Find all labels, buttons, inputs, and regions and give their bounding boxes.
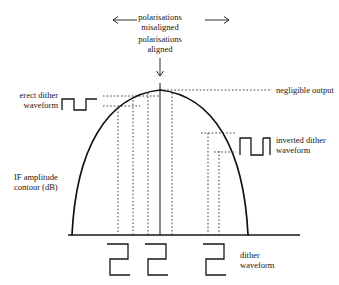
inverted-dither-waveform-glyph — [240, 138, 263, 155]
label-inverted-dither-waveform: inverted dither waveform — [276, 135, 338, 155]
diagram-root: polarisations misaligned polarisations a… — [0, 0, 339, 285]
inverted-dither-waveform-tail — [263, 138, 270, 155]
dither-sample-lines — [118, 93, 219, 235]
bottom-dither-waveforms — [107, 244, 226, 275]
label-polarisations-misaligned: polarisations misaligned — [124, 12, 196, 32]
label-erect-dither-waveform: erect dither waveform — [0, 90, 58, 110]
projection-lines — [103, 90, 272, 152]
aligned-down-arrow — [157, 58, 164, 76]
label-dither-waveform: dither waveform — [240, 250, 300, 270]
label-polarisations-aligned: polarisations aligned — [124, 34, 196, 54]
bottom-dither-pulse-3 — [203, 244, 226, 275]
bottom-dither-pulse-2 — [145, 244, 168, 275]
bottom-dither-pulse-1 — [107, 244, 130, 275]
label-negligible-output: negligible output — [276, 85, 339, 95]
label-if-amplitude-contour: IF amplitude contour (dB) — [14, 172, 84, 192]
erect-dither-waveform-glyph — [62, 99, 97, 110]
